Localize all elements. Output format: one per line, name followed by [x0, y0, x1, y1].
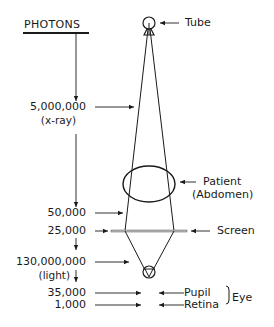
count-after-patient: 50,000: [0, 207, 86, 219]
label-retina: Retina: [184, 299, 219, 311]
xray-beam: [125, 29, 174, 231]
label-patient-note: (Abdomen): [192, 189, 253, 201]
count-retina: 1,000: [0, 299, 86, 311]
note-xray: (x-ray): [0, 114, 76, 126]
title-underline: [23, 32, 89, 34]
screen-plate: [111, 230, 187, 232]
eye-bracket: [226, 286, 229, 304]
count-pointer-arrows: [95, 107, 141, 305]
note-light: (light): [0, 269, 70, 281]
label-patient: Patient: [203, 176, 241, 188]
count-screen: 25,000: [0, 225, 86, 237]
light-beam: [125, 231, 174, 270]
label-tube: Tube: [185, 17, 211, 29]
label-screen: Screen: [217, 225, 255, 237]
label-eye: Eye: [232, 292, 252, 304]
count-light: 130,000,000: [0, 256, 86, 268]
count-xray: 5,000,000: [0, 101, 86, 113]
component-pointer-arrows: [159, 23, 210, 305]
eye-icon: [143, 266, 155, 278]
photons-title: PHOTONS: [24, 19, 80, 31]
photon-flow-diagram: PHOTONS 5,000,000 (x-ray) 50,000 25,000 …: [0, 0, 274, 327]
xray-tube-icon: [143, 17, 155, 35]
